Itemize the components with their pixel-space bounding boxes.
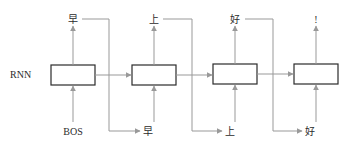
rnn-unrolled-diagram: RNN 早 上 好 ! BOS 早 上 好 xyxy=(0,0,353,149)
input-label-4: 好 xyxy=(305,126,315,137)
output-label-2: 上 xyxy=(149,14,159,25)
input-label-bos: BOS xyxy=(63,126,82,137)
output-label-1: 早 xyxy=(68,14,78,25)
input-label-3: 上 xyxy=(225,126,235,137)
output-label-3: 好 xyxy=(230,14,240,25)
rnn-cell-3 xyxy=(213,64,257,84)
rnn-cell-4 xyxy=(294,64,338,84)
rnn-cell-1 xyxy=(51,65,95,85)
output-label-4: ! xyxy=(314,14,317,25)
rnn-label: RNN xyxy=(10,69,31,80)
rnn-cell-2 xyxy=(132,65,176,85)
input-label-2: 早 xyxy=(143,126,153,137)
